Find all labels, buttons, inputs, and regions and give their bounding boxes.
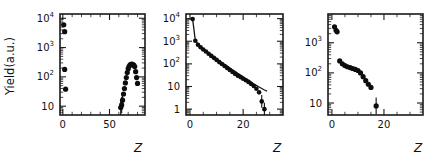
panel-3-container: 10310210020Z — [290, 0, 432, 162]
y-tick-label: 103 — [37, 40, 54, 53]
y-tick-label: 103 — [305, 35, 322, 48]
x-tick-label: 20 — [237, 119, 250, 130]
y-tick-label: 10 — [167, 81, 180, 92]
y-tick-label: 104 — [37, 11, 55, 24]
y-tick-label: 103 — [163, 34, 180, 47]
y-tick-label: 102 — [163, 56, 180, 69]
y-tick-label: 1 — [174, 104, 180, 115]
y-tick-label: 10 — [309, 98, 322, 109]
panel-3-plot: 10310210020Z — [290, 0, 432, 162]
data-point — [135, 81, 140, 86]
panel-1-data-points — [61, 22, 140, 115]
data-point — [193, 38, 198, 43]
data-point — [119, 102, 124, 107]
panel-3-data-points — [332, 24, 379, 114]
x-axis-title: Z — [413, 141, 423, 155]
x-tick-label: 0 — [187, 119, 193, 130]
panel-2-container: 104103102101020Z — [150, 0, 290, 162]
data-point — [120, 98, 125, 103]
data-point — [121, 91, 126, 96]
x-tick-label: 50 — [103, 119, 116, 130]
panel-2-data-points — [190, 17, 266, 115]
data-point — [133, 69, 138, 74]
data-point — [368, 85, 373, 90]
data-point — [259, 99, 264, 104]
data-point — [134, 75, 139, 80]
panel-2-fit-curve — [193, 19, 267, 91]
data-point — [124, 75, 129, 80]
data-point — [257, 90, 262, 95]
x-axis-title: Z — [133, 141, 143, 155]
data-point — [61, 22, 66, 27]
y-axis-title: Yield(a.u.) — [3, 37, 17, 96]
data-point — [62, 29, 67, 34]
panel-2-plot: 104103102101020Z — [150, 0, 290, 162]
y-tick-label: 102 — [305, 65, 322, 78]
data-point — [63, 87, 68, 92]
y-tick-label: 10 — [41, 101, 54, 112]
data-point — [254, 86, 259, 91]
panel-1-plot: 10410310210050ZYield(a.u.) — [0, 0, 150, 162]
data-point — [132, 64, 137, 69]
y-tick-label: 102 — [37, 69, 54, 82]
data-point — [123, 80, 128, 85]
x-tick-label: 20 — [378, 119, 391, 130]
data-point — [62, 67, 67, 72]
data-point — [122, 86, 127, 91]
data-point — [335, 29, 340, 34]
data-point — [262, 107, 267, 112]
panel-1-container: 10410310210050ZYield(a.u.) — [0, 0, 150, 162]
x-axis-title: Z — [272, 141, 282, 155]
y-tick-label: 104 — [163, 11, 181, 24]
data-point — [374, 103, 379, 108]
panel-2-frame — [186, 14, 283, 115]
data-point — [190, 17, 195, 22]
x-tick-label: 0 — [60, 119, 66, 130]
figure-three-log-scatter-panels: 10410310210050ZYield(a.u.) 1041031021010… — [0, 0, 432, 162]
x-tick-label: 0 — [329, 119, 335, 130]
